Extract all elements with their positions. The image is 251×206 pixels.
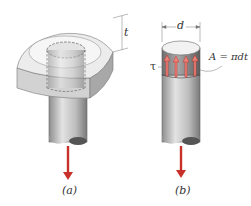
thickness-label: t <box>124 26 128 39</box>
rod-top-face <box>162 41 200 55</box>
diameter-label: d <box>177 19 184 32</box>
area-equation-label: A = πdt <box>209 51 248 62</box>
load-arrow-a <box>63 146 73 180</box>
shear-stress-label: τ <box>150 60 156 73</box>
panel-b <box>158 22 222 178</box>
rod-end-face <box>182 137 200 145</box>
plate-a <box>17 33 113 98</box>
caption-a: (a) <box>62 184 77 197</box>
caption-b: (b) <box>175 184 191 197</box>
rod-end-face <box>69 137 87 145</box>
load-arrow-b <box>176 146 186 178</box>
panel-a <box>17 14 128 180</box>
rod-b <box>162 75 200 145</box>
area-leader-line <box>200 66 222 71</box>
